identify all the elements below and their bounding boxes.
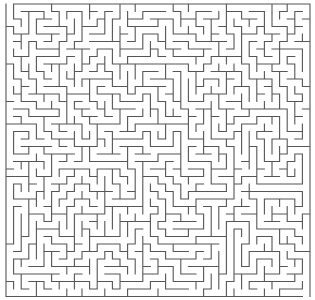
- maze-grid: [0, 0, 315, 300]
- maze-background: [0, 0, 315, 300]
- maze: [0, 0, 315, 300]
